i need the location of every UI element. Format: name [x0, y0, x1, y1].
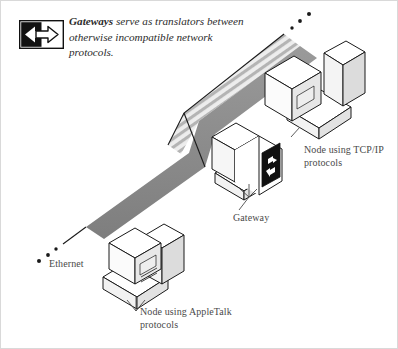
label-ethernet: Ethernet — [49, 258, 84, 271]
dotted-line-top-right-icon — [290, 12, 311, 30]
appletalk-node-graphic — [103, 224, 184, 309]
bidirectional-arrow-icon — [19, 20, 64, 49]
figure-caption: Gateways serve as translators between ot… — [69, 14, 259, 61]
label-gateway: Gateway — [233, 212, 269, 225]
label-appletalk-node: Node using AppleTalk protocols — [140, 306, 232, 331]
gateway-device-graphic — [212, 123, 282, 200]
label-tcpip-node: Node using TCP/IP protocols — [304, 144, 384, 169]
gateway-network-figure: Gateways serve as translators between ot… — [0, 0, 398, 349]
caption-term: Gateways — [69, 15, 113, 27]
